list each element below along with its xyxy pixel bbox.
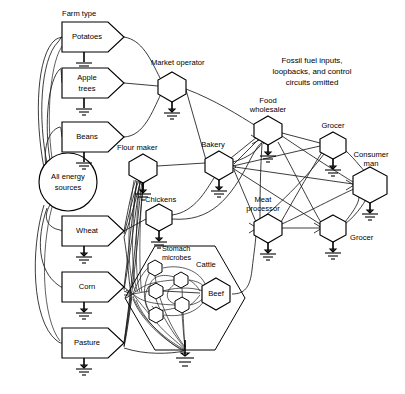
farm-box-pasture-label: Pasture <box>74 338 100 347</box>
chickens-label: Chickens <box>145 195 176 204</box>
stomach-microbe-3[interactable] <box>149 283 163 299</box>
bakery-label: Bakery <box>201 140 225 149</box>
omission-note-line3: circuits omitted <box>286 78 339 87</box>
omission-note-line1: Fossil fuel inputs, <box>282 56 343 65</box>
stomach-microbe-5[interactable] <box>149 307 163 323</box>
all-energy-sources-label-line1: All energy <box>51 172 85 181</box>
ground-grocer-lower <box>325 242 341 259</box>
energy-flow-diagram: Cattle Stomach microbes Beef All energy … <box>0 0 405 394</box>
consumer-man-label-line1: Consumer <box>353 150 388 159</box>
meat-processor-label-line2: processor <box>246 204 280 213</box>
omission-note-line2: loopbacks, and control <box>273 67 352 76</box>
bakery-node[interactable]: Bakery <box>201 140 233 197</box>
omission-note: Fossil fuel inputs, loopbacks, and contr… <box>273 56 352 87</box>
ground-apple-trees <box>76 98 92 115</box>
market-operator-label: Market operator <box>151 58 205 67</box>
grocer-lower-node[interactable]: Grocer <box>320 215 374 259</box>
meat-processor-node[interactable]: Meat processor <box>246 195 282 260</box>
flour-maker-label: Flour maker <box>117 143 158 152</box>
all-energy-sources-node[interactable]: All energy sources <box>39 153 97 211</box>
stomach-microbes-label-line1: Stomach <box>162 244 190 253</box>
farm-type-section-label: Farm type <box>62 9 96 18</box>
chickens-node[interactable]: Chickens <box>145 195 176 248</box>
all-energy-sources-label-line2: sources <box>55 183 82 192</box>
ground-consumer-man <box>362 203 378 220</box>
ground-wheat <box>76 246 92 263</box>
farm-box-corn-label: Corn <box>79 282 95 291</box>
stomach-microbe-4[interactable] <box>175 297 189 313</box>
grocer-upper-node[interactable]: Grocer <box>320 121 346 176</box>
food-wholesaler-label-line2: wholesaler <box>249 105 287 114</box>
farm-box-wheat[interactable]: Wheat <box>62 216 124 263</box>
beef-label: Beef <box>208 289 225 298</box>
cattle-group[interactable]: Cattle Stomach microbes Beef <box>125 244 245 366</box>
farm-box-potatoes[interactable]: Potatoes <box>62 22 124 69</box>
farm-box-apple-trees-label-line2: trees <box>79 84 96 93</box>
farm-box-pasture[interactable]: Pasture <box>62 328 124 375</box>
consumer-man-node[interactable]: Consumer man <box>353 150 389 220</box>
ground-corn <box>76 302 92 319</box>
ground-pasture <box>76 358 92 375</box>
diagram-canvas: Cattle Stomach microbes Beef All energy … <box>0 0 405 394</box>
stomach-microbes-label-line2: microbes <box>162 253 192 262</box>
food-wholesaler-label-line1: Food <box>259 96 276 105</box>
farm-box-corn[interactable]: Corn <box>62 272 124 319</box>
ground-market-operator <box>164 102 180 119</box>
meat-processor-label-line1: Meat <box>255 195 273 204</box>
consumer-man-label-line2: man <box>364 159 379 168</box>
ground-potatoes <box>76 52 92 69</box>
farm-box-apple-trees[interactable]: Apple trees <box>62 68 124 115</box>
ground-meat-processor <box>260 243 276 260</box>
farm-box-wheat-label: Wheat <box>76 226 99 235</box>
farm-box-apple-trees-label-line1: Apple <box>77 73 96 82</box>
cattle-label: Cattle <box>196 260 216 269</box>
farm-box-beans-label: Beans <box>76 132 98 141</box>
grocer-lower-label: Grocer <box>350 233 374 242</box>
stomach-microbe-2[interactable] <box>174 272 188 288</box>
grocer-upper-label: Grocer <box>321 121 345 130</box>
ground-bakery <box>211 180 227 197</box>
market-operator-node[interactable]: Market operator <box>151 58 205 119</box>
farm-box-potatoes-label: Potatoes <box>72 32 102 41</box>
stomach-microbe-1[interactable] <box>148 260 162 276</box>
